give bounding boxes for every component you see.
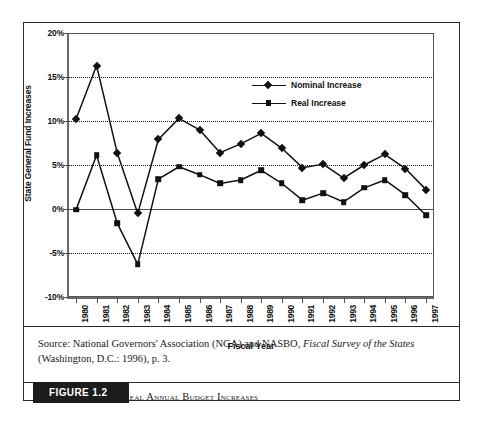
chart-region: 20%15%10%5%0%-5%-10% 1980198119821983198… xyxy=(24,23,459,326)
x-tick-mark-1987 xyxy=(220,297,221,303)
x-tick-label-1992: 1992 xyxy=(327,305,337,323)
legend-marker-diamond-icon xyxy=(252,80,286,90)
y-axis-title: State General Fund Increases xyxy=(23,85,33,202)
x-tick-mark-1982 xyxy=(117,297,118,303)
x-tick-mark-1990 xyxy=(282,297,283,303)
series-lines xyxy=(68,33,434,297)
x-tick-label-1984: 1984 xyxy=(162,305,172,323)
x-tick-label-1991: 1991 xyxy=(306,305,316,323)
x-tick-mark-1984 xyxy=(158,297,159,303)
y-tick-mark-10 xyxy=(64,121,69,122)
y-tick-label--5: -5% xyxy=(24,248,64,258)
source-title: Fiscal Survey of the States xyxy=(303,338,414,349)
x-tick-label-1986: 1986 xyxy=(204,305,214,323)
y-tick-mark-20 xyxy=(64,33,69,34)
legend-label-nominal: Nominal Increase xyxy=(291,80,361,90)
data-point xyxy=(94,153,100,159)
legend-item-real: Real Increase xyxy=(252,95,361,111)
data-point xyxy=(382,177,388,183)
x-tick-mark-1983 xyxy=(138,297,139,303)
x-tick-mark-1986 xyxy=(200,297,201,303)
x-tick-label-1996: 1996 xyxy=(409,305,419,323)
data-point xyxy=(114,220,120,226)
data-point xyxy=(176,164,182,170)
x-tick-label-1995: 1995 xyxy=(389,305,399,323)
source-note: Source: National Governors' Association … xyxy=(24,326,459,374)
legend-marker-square-icon xyxy=(252,98,286,108)
x-tick-mark-1995 xyxy=(385,297,386,303)
line-real xyxy=(76,155,426,264)
line-nominal xyxy=(76,66,426,214)
y-tick-mark-0 xyxy=(64,209,69,210)
x-tick-label-1983: 1983 xyxy=(142,305,152,323)
legend-item-nominal: Nominal Increase xyxy=(252,77,361,93)
y-tick-label-15: 15% xyxy=(24,72,64,82)
x-tick-label-1990: 1990 xyxy=(286,305,296,323)
data-point xyxy=(300,197,306,203)
x-tick-label-1989: 1989 xyxy=(265,305,275,323)
y-tick-mark--10 xyxy=(64,297,69,298)
x-tick-mark-1980 xyxy=(76,297,77,303)
figure-number-tab: FIGURE 1.2 xyxy=(33,382,129,403)
x-tick-label-1980: 1980 xyxy=(80,305,90,323)
data-point xyxy=(423,212,429,218)
x-tick-mark-1997 xyxy=(426,297,427,303)
x-tick-mark-1992 xyxy=(323,297,324,303)
y-tick-label-0: 0% xyxy=(24,204,64,214)
data-point xyxy=(258,167,264,173)
source-suffix: (Washington, D.C.: 1996), p. 3. xyxy=(38,353,170,364)
x-tick-label-1981: 1981 xyxy=(101,305,111,323)
data-point xyxy=(73,207,79,213)
x-tick-label-1993: 1993 xyxy=(348,305,358,323)
figure-outer-box: 20%15%10%5%0%-5%-10% 1980198119821983198… xyxy=(23,22,460,401)
x-tick-mark-1981 xyxy=(97,297,98,303)
x-tick-mark-1985 xyxy=(179,297,180,303)
data-point xyxy=(238,177,244,183)
x-tick-mark-1994 xyxy=(364,297,365,303)
x-tick-label-1994: 1994 xyxy=(368,305,378,323)
x-tick-mark-1991 xyxy=(302,297,303,303)
source-prefix: Source: National Governors' Association … xyxy=(38,338,303,349)
data-point xyxy=(320,190,326,196)
x-tick-label-1988: 1988 xyxy=(245,305,255,323)
chart-legend: Nominal Increase Real Increase xyxy=(252,77,361,113)
y-tick-label--10: -10% xyxy=(24,292,64,302)
data-point xyxy=(217,181,223,187)
data-point xyxy=(135,262,141,268)
data-point xyxy=(279,181,285,187)
plot-area xyxy=(68,33,434,297)
x-tick-mark-1996 xyxy=(405,297,406,303)
y-tick-mark--5 xyxy=(64,253,69,254)
x-tick-label-1997: 1997 xyxy=(430,305,440,323)
x-tick-mark-1989 xyxy=(261,297,262,303)
data-point xyxy=(403,192,409,198)
x-tick-label-1982: 1982 xyxy=(121,305,131,323)
legend-label-real: Real Increase xyxy=(291,98,346,108)
x-tick-label-1985: 1985 xyxy=(183,305,193,323)
data-point xyxy=(156,176,162,182)
x-tick-mark-1988 xyxy=(241,297,242,303)
y-tick-mark-15 xyxy=(64,77,69,78)
data-point xyxy=(361,185,367,191)
figure-page: 20%15%10%5%0%-5%-10% 1980198119821983198… xyxy=(0,0,483,436)
x-tick-label-1987: 1987 xyxy=(224,305,234,323)
x-tick-mark-1993 xyxy=(344,297,345,303)
data-point xyxy=(341,199,347,205)
y-tick-label-20: 20% xyxy=(24,28,64,38)
data-point xyxy=(197,172,203,178)
x-axis-line xyxy=(67,297,434,299)
y-tick-mark-5 xyxy=(64,165,69,166)
